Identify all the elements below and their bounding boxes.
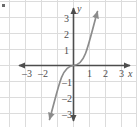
y-tick-label-neg1: –1 [62, 78, 72, 88]
graph-figure: –3 –2 1 2 3 3 2 1 –1 –2 –3 y x [0, 0, 137, 127]
x-tick-label-1: 1 [87, 69, 92, 79]
x-tick-label-neg2: –2 [38, 69, 48, 79]
y-tick-label-neg3: –3 [62, 110, 72, 120]
y-tick-label-neg2: –2 [62, 94, 72, 104]
y-tick-label-1: 1 [64, 46, 69, 56]
y-axis-label: y [77, 4, 81, 14]
x-tick-label-2: 2 [103, 69, 108, 79]
x-tick-label-neg3: –3 [22, 69, 32, 79]
y-tick-label-3: 3 [64, 14, 69, 24]
x-tick-label-3: 3 [119, 69, 124, 79]
x-axis-label: x [128, 69, 132, 79]
y-tick-label-2: 2 [64, 30, 69, 40]
